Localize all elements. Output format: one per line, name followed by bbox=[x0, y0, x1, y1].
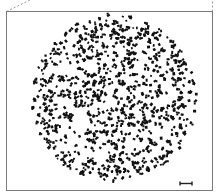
micrograph-figure bbox=[0, 0, 217, 194]
